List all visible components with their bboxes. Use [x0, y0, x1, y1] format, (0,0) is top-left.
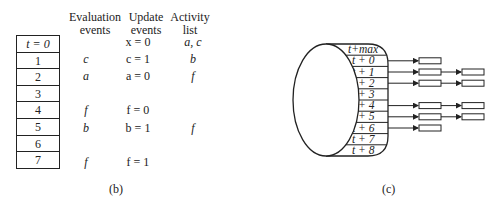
slot-label: t + 8 [352, 144, 375, 156]
wheel-face [293, 44, 359, 156]
wheel-cylinder: t+maxt + 0t + 1t + 2t + 3t + 4t + 5t + 6… [293, 43, 388, 156]
event-box [462, 80, 484, 86]
slot-label: t+max [348, 43, 379, 55]
event-box [419, 80, 441, 86]
event-box [462, 114, 484, 120]
event-box [419, 58, 441, 64]
event-box [462, 103, 484, 109]
event-box [419, 114, 441, 120]
slot-label: t + 7 [352, 133, 376, 145]
event-lists [388, 58, 484, 131]
event-box [419, 103, 441, 109]
event-box [419, 69, 441, 75]
event-box [419, 125, 441, 131]
event-box [462, 69, 484, 75]
timing-wheel-diagram: t+maxt + 0t + 1t + 2t + 3t + 4t + 5t + 6… [0, 0, 499, 201]
caption-c: (c) [382, 182, 395, 197]
slot-label: t + 0 [352, 54, 375, 66]
